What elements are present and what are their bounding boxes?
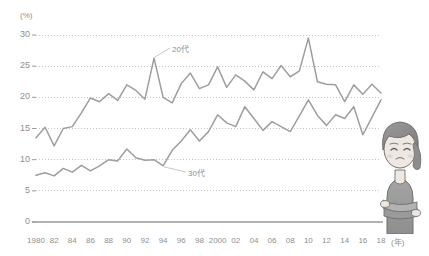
- x-tick-2008: 08: [286, 236, 295, 245]
- series-label-30dai: 30代: [188, 167, 205, 178]
- x-tick-2014: 14: [340, 236, 349, 245]
- x-tick-1996: 96: [177, 236, 186, 245]
- series-lines-group: [36, 38, 381, 176]
- x-tick-2000: 2000: [209, 236, 227, 245]
- y-axis-unit-label: (%): [20, 11, 32, 20]
- y-tick-20: 20: [8, 91, 30, 101]
- y-tick-15: 15: [8, 123, 30, 133]
- x-tick-1980: 1980: [27, 236, 45, 245]
- x-tick-1998: 98: [195, 236, 204, 245]
- x-tick-1988: 88: [104, 236, 113, 245]
- x-tick-2018: 18: [377, 236, 386, 245]
- chart-canvas: [0, 0, 429, 256]
- gridlines-group: [36, 35, 381, 191]
- woman-thinking-illustration: [373, 112, 427, 234]
- y-tick-25: 25: [8, 60, 30, 70]
- x-tick-2010: 10: [304, 236, 313, 245]
- x-tick-1992: 92: [140, 236, 149, 245]
- series-label-20dai: 20代: [172, 43, 189, 54]
- line-chart: (%) 051015202530 19808284868890929496982…: [0, 0, 429, 256]
- y-tick-10: 10: [8, 154, 30, 164]
- x-tick-1986: 86: [86, 236, 95, 245]
- x-tick-1994: 94: [159, 236, 168, 245]
- x-tick-1990: 90: [122, 236, 131, 245]
- y-tick-5: 5: [8, 185, 30, 195]
- x-tick-2006: 06: [268, 236, 277, 245]
- y-tick-30: 30: [8, 29, 30, 39]
- x-tick-1984: 84: [68, 236, 77, 245]
- x-tick-2002: 02: [231, 236, 240, 245]
- x-tick-1982: 82: [50, 236, 59, 245]
- x-axis-unit-label: (年): [391, 236, 404, 247]
- x-tick-2016: 16: [358, 236, 367, 245]
- x-tick-2012: 12: [322, 236, 331, 245]
- x-tick-2004: 04: [249, 236, 258, 245]
- y-tick-0: 0: [8, 216, 30, 226]
